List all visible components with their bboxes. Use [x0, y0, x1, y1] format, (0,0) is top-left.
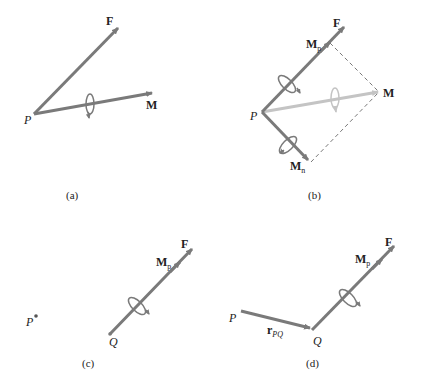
- parallel-moment-label: Mp: [355, 252, 370, 268]
- point-label: P: [23, 113, 32, 127]
- point-p-marker: [34, 314, 38, 318]
- point-q-label: Q: [313, 334, 322, 348]
- panel-a: F M P (a): [23, 14, 157, 202]
- force-label: F: [385, 235, 392, 249]
- panel-c: F Mp P Q (c): [25, 237, 192, 370]
- force-label: F: [333, 16, 340, 30]
- force-label: F: [181, 237, 188, 251]
- panel-b: F Mp M P Mn (b): [249, 16, 394, 202]
- panel-caption: (c): [82, 357, 95, 370]
- moment-label: M: [146, 98, 157, 112]
- moment-label: M: [383, 86, 394, 100]
- dashed-guide: [330, 43, 379, 92]
- force-vector: [312, 246, 394, 330]
- panel-caption: (a): [66, 189, 79, 202]
- normal-moment-label: Mn: [290, 159, 305, 175]
- panel-caption: (b): [308, 189, 321, 202]
- point-p-label: P: [25, 315, 34, 329]
- rotation-arrow-icon: [337, 287, 360, 310]
- parallel-moment-label: Mp: [306, 37, 321, 53]
- position-vector: [241, 311, 310, 328]
- point-p-label: P: [228, 311, 237, 325]
- figure-canvas: F M P (a) F Mp M P Mn (b): [0, 0, 427, 385]
- point-q-label: Q: [109, 335, 118, 349]
- position-vector-label: rPQ: [267, 323, 283, 339]
- force-label: F: [106, 14, 113, 28]
- parallel-moment-label: Mp: [156, 255, 171, 271]
- parallel-moment-marker: [170, 262, 180, 272]
- parallel-moment-marker: [320, 42, 330, 52]
- point-label: P: [249, 109, 258, 123]
- panel-d: F Mp P rPQ Q (d): [228, 235, 394, 370]
- panel-caption: (d): [306, 357, 319, 370]
- parallel-moment-marker: [372, 259, 382, 269]
